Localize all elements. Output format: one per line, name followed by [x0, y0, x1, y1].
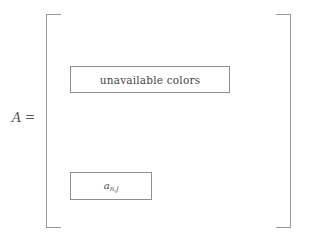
matrix-label: A = — [12, 106, 44, 128]
matrix-right-bracket — [275, 14, 291, 228]
right-bracket-top-arm — [276, 14, 291, 15]
right-bracket-stem — [290, 14, 291, 228]
matrix-cell-entry-anj: an,j — [70, 172, 152, 200]
left-bracket-bottom-arm — [46, 227, 61, 228]
right-bracket-bottom-arm — [276, 227, 291, 228]
left-bracket-stem — [46, 14, 47, 228]
left-bracket-top-arm — [46, 14, 61, 15]
matrix-variable-name: A — [12, 110, 22, 125]
matrix-figure: A = unavailable colors an,j — [0, 0, 316, 235]
unavailable-colors-label: unavailable colors — [100, 74, 200, 86]
entry-subscript: n,j — [110, 185, 119, 193]
entry-base-symbol: a — [104, 180, 110, 191]
matrix-left-bracket — [46, 14, 62, 228]
matrix-cell-unavailable-colors: unavailable colors — [70, 66, 230, 93]
equals-sign: = — [25, 110, 36, 124]
matrix-entry-anj: an,j — [104, 181, 119, 191]
